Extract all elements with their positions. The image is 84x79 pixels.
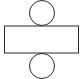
bottom-circle-base [30,54,55,79]
cylinder-net-diagram [0,0,84,79]
lateral-surface-rectangle [5,26,79,53]
top-circle-base [30,1,55,26]
